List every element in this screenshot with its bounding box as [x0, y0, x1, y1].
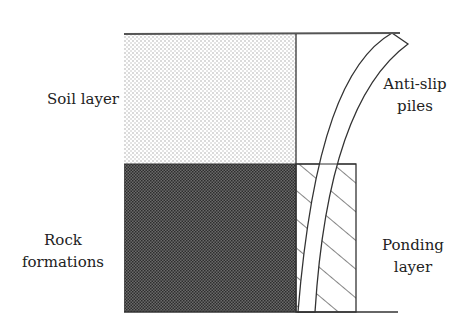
ponding-layer-label: Ponding layer	[363, 234, 463, 278]
soil-layer-label: Soil layer	[28, 88, 138, 110]
soil-layer-region	[124, 34, 296, 164]
ground-surface-line	[124, 33, 400, 34]
anti-slip-piles-label: Anti-slip piles	[365, 73, 465, 117]
anti-slip-piles-label-line1: Anti-slip	[365, 73, 465, 95]
ponding-layer-label-line2: layer	[363, 256, 463, 278]
rock-formations-label: Rock formations	[8, 229, 118, 273]
rock-formations-label-line2: formations	[8, 251, 118, 273]
rock-formations-label-line1: Rock	[8, 229, 118, 251]
ponding-layer-label-line1: Ponding	[363, 234, 463, 256]
anti-slip-piles-label-line2: piles	[365, 95, 465, 117]
rock-formations-region	[124, 164, 296, 312]
